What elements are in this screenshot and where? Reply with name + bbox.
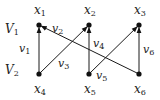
edge-label-v2: v2 <box>52 22 63 36</box>
labels-layer: v1v2v3v4v5v6x1x2x3x4x5x6V1V2 <box>5 3 154 97</box>
edge-v5 <box>89 27 137 74</box>
node-x6 <box>136 71 141 76</box>
node-label-x4: x4 <box>34 82 46 97</box>
bipartite-graph-diagram: v1v2v3v4v5v6x1x2x3x4x5x6V1V2 <box>0 0 160 100</box>
node-x2 <box>86 22 91 27</box>
node-label-x1: x1 <box>34 3 46 18</box>
node-label-x6: x6 <box>134 82 146 97</box>
node-x4 <box>36 71 41 76</box>
node-x3 <box>136 22 141 27</box>
edge-label-v3: v3 <box>58 57 69 71</box>
group-label-V1: V1 <box>5 22 19 37</box>
node-label-x3: x3 <box>134 3 146 18</box>
node-x5 <box>86 71 91 76</box>
edge-label-v4: v4 <box>93 37 104 51</box>
edge-label-v1: v1 <box>19 42 30 56</box>
node-x1 <box>36 22 41 27</box>
edge-label-v6: v6 <box>143 43 154 57</box>
edge-label-v5: v5 <box>96 69 107 83</box>
node-label-x5: x5 <box>84 82 96 97</box>
node-label-x2: x2 <box>84 3 96 18</box>
group-label-V2: V2 <box>5 63 19 78</box>
